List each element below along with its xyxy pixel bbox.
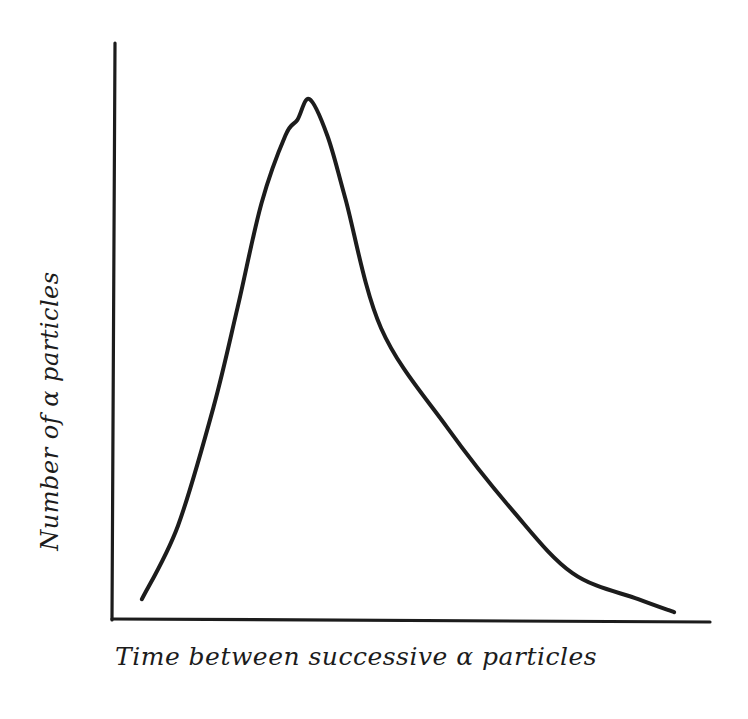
distribution-curve <box>142 99 674 612</box>
y-axis-label: Number of α particles <box>36 271 64 550</box>
x-axis <box>112 619 710 622</box>
plot-area <box>0 0 748 719</box>
x-axis-label: Time between successive α particles <box>115 642 597 671</box>
chart: Number of α particles Time between succe… <box>0 0 748 719</box>
y-axis <box>112 43 115 620</box>
